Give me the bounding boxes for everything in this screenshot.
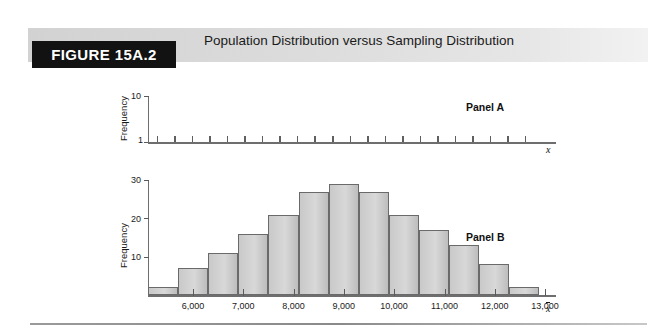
panel-b-histogram-bar [238, 234, 268, 295]
panel-b-y-axis-label: Frequency [118, 223, 129, 268]
panel-a-bar [174, 136, 176, 142]
panel-a-bar [472, 136, 474, 142]
panel-b-histogram-bar [509, 287, 539, 295]
panel-b-y-tick-20: 20 [131, 214, 141, 224]
panel-a-bar [437, 136, 439, 142]
panel-b-x-tick-mark [545, 289, 546, 296]
panel-a-y-tick-1: 1 [138, 135, 143, 145]
panel-b-x-tick-mark [193, 289, 194, 296]
panel-a-bar [192, 136, 194, 142]
panel-b-histogram-bar [359, 192, 389, 296]
panel-b-x-tick-label: 9,000 [333, 301, 356, 311]
panel-b-x-tick-label: 10,000 [380, 301, 408, 311]
panel-a-tag: Panel A [466, 101, 504, 113]
panel-b-histogram-bar [148, 287, 178, 295]
panel-b-y-tick-30: 30 [131, 175, 141, 185]
panel-a-bar [157, 136, 159, 142]
panel-a-bar [314, 136, 316, 142]
panel-b-histogram-bar [419, 230, 449, 295]
panel-a-bar [332, 136, 334, 142]
panel-a-bar [420, 136, 422, 142]
panel-b-x-tick-label: 7,000 [232, 301, 255, 311]
panel-b-tag: Panel B [466, 231, 505, 243]
panel-a-bar [279, 136, 281, 142]
panel-a-bar [402, 136, 404, 142]
panel-a-bar [490, 136, 492, 142]
panel-a-bar [385, 136, 387, 142]
panel-b-x-tick-label: 13,000 [531, 301, 559, 311]
panel-a-bar [262, 136, 264, 142]
panel-a-bar [525, 136, 527, 142]
panel-b-x-tick-mark [243, 289, 244, 296]
panel-b-x-tick-mark [294, 289, 295, 296]
panel-b-x-tick-label: 12,000 [481, 301, 509, 311]
panel-b-x-tick-mark [394, 289, 395, 296]
panel-a-x-axis-variable: x [546, 144, 550, 155]
panel-b-histogram-bar [268, 215, 298, 296]
panel-a-bar [507, 136, 509, 142]
panel-a-bar [209, 136, 211, 142]
bottom-divider-rule [30, 323, 647, 325]
panel-b-histogram-bar [299, 192, 329, 296]
panel-a-bar [244, 136, 246, 142]
panel-b-x-tick-mark [495, 289, 496, 296]
panel-a-bar [297, 136, 299, 142]
panel-b-histogram-bar [208, 253, 238, 295]
panel-b-histogram-bar [389, 215, 419, 296]
panel-b-x-tick-label: 8,000 [282, 301, 305, 311]
panel-b-histogram-bar [329, 184, 359, 295]
panel-b-x-tick-mark [445, 289, 446, 296]
panel-a-bar [455, 136, 457, 142]
panel-b-x-tick-mark [344, 289, 345, 296]
panel-a-y-axis-label: Frequency [118, 96, 129, 141]
panel-a-bar [367, 136, 369, 142]
panel-b-x-tick-label: 11,000 [431, 301, 458, 311]
panel-a-y-tick-10: 10 [131, 91, 141, 101]
panel-b-x-tick-label: 6,000 [182, 301, 205, 311]
panel-b-histogram-bar [449, 245, 479, 295]
panel-a-bar [227, 136, 229, 142]
panel-a-x-axis-line [148, 142, 556, 144]
panel-a-bar [350, 136, 352, 142]
panel-b-y-tick-10: 10 [131, 252, 141, 262]
